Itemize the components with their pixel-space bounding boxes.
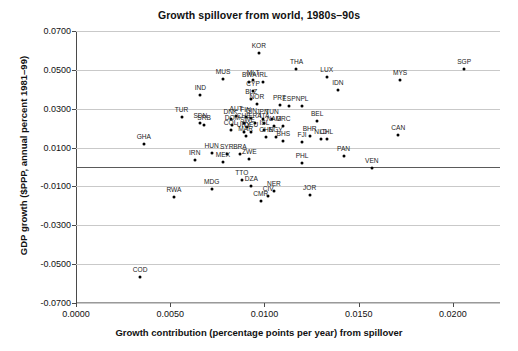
scatter-point [142,143,145,146]
scatter-point [370,166,373,169]
point-label: THA [290,59,303,66]
chart-title: Growth spillover from world, 1980s–90s [0,9,518,21]
point-label: COD [133,267,148,274]
scatter-point [238,152,241,155]
point-label: SGP [457,59,471,66]
x-tick-label: 0.0000 [62,309,90,319]
x-tick-mark [359,303,360,307]
point-label: MAR [238,127,253,134]
point-label: TUR [175,107,189,114]
scatter-point [139,275,142,278]
y-axis-label: GDP growth ($PPP, annual percent 1981–99… [18,41,29,271]
point-label: SYR [220,144,234,151]
point-label: RWA [166,187,181,194]
point-label: BEL [311,112,323,119]
y-tick-label: 0.0700 [43,26,71,36]
point-label: FJI [298,133,307,140]
point-label: NOR [250,95,265,102]
y-tick-label: 0.0100 [43,143,71,153]
x-tick-mark [170,303,171,307]
x-tick-mark [76,303,77,307]
scatter-point [250,185,253,188]
gridline-y [76,109,500,110]
point-label: LUX [320,67,333,74]
point-label: KOR [252,44,266,51]
y-tick-label: -0.0500 [40,259,71,269]
y-tick-label: -0.0300 [40,220,71,230]
x-tick-label: 0.0200 [439,309,467,319]
point-label: MUS [216,69,231,76]
y-tick-mark [72,31,76,32]
gridline-y [76,264,500,265]
gridline-y [76,31,500,32]
scatter-point [199,122,202,125]
point-label: COL [224,121,238,128]
gridline-y [76,225,500,226]
y-tick-label: 0.0500 [43,65,71,75]
zero-line [76,167,500,168]
scatter-point [278,104,281,107]
scatter-point [240,178,243,181]
x-tick-mark [453,303,454,307]
scatter-point [210,152,213,155]
scatter-point [301,105,304,108]
scatter-point [229,129,232,132]
y-tick-mark [72,70,76,71]
point-label: DZA [245,176,258,183]
x-tick-label: 0.0050 [156,309,184,319]
chart-figure: Growth spillover from world, 1980s–90s G… [0,0,518,351]
point-label: GHA [137,134,151,141]
scatter-point [265,136,268,139]
y-tick-mark [72,109,76,110]
point-label: HUN [205,143,219,150]
point-label: IDN [332,81,343,88]
point-label: CYP [246,81,260,88]
point-label: BWA [242,72,257,79]
point-label: VEN [365,158,379,165]
scatter-point [193,159,196,162]
point-label: GRC [276,117,291,124]
scatter-point [172,195,175,198]
scatter-point [295,67,298,70]
scatter-point [244,135,247,138]
y-tick-mark [72,148,76,149]
scatter-point [397,133,400,136]
point-label: MDG [204,180,219,187]
scatter-point [463,67,466,70]
point-label: PAN [337,147,350,154]
y-tick-label: -0.0700 [40,298,71,308]
scatter-point [248,158,251,161]
scatter-point [287,104,290,107]
point-label: JOR [303,186,316,193]
scatter-point [272,189,275,192]
point-label: IRL [257,72,267,79]
point-label: CAN [391,125,405,132]
scatter-point [325,76,328,79]
plot-area: 0.07000.05000.03000.0100-0.0100-0.0300-0… [76,31,500,303]
scatter-point [342,155,345,158]
y-tick-mark [72,264,76,265]
point-label: MEX [216,152,230,159]
scatter-point [257,52,260,55]
scatter-point [301,141,304,144]
scatter-point [336,89,339,92]
point-label: BHS [277,131,291,138]
scatter-point [308,135,311,138]
scatter-point [319,137,322,140]
gridline-y [76,70,500,71]
scatter-point [261,80,264,83]
scatter-point [199,94,202,97]
x-tick-mark [264,303,265,307]
scatter-point [259,200,262,203]
scatter-point [399,78,402,81]
point-label: NER [267,181,281,188]
scatter-point [221,160,224,163]
point-label: IRN [189,151,200,158]
scatter-point [316,120,319,123]
scatter-point [308,194,311,197]
point-label: PHL [296,154,309,161]
scatter-point [180,115,183,118]
point-label: ZWE [242,150,257,157]
gridline-y [76,186,500,187]
scatter-point [301,162,304,165]
